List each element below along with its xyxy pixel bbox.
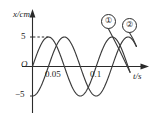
y-axis-arrowhead [30,9,36,18]
curve-1-leader [108,27,131,72]
x-tick-label-005: 0.05 [45,70,61,79]
curve-2-leader [129,31,137,46]
x-tick-label-01: 0.1 [90,70,101,79]
x-axis-arrowhead [141,64,150,70]
x-axis-label: t/s [133,72,142,81]
y-axis-label: x/cm [13,10,30,19]
origin-label: O [21,60,28,69]
y-tick-label-neg5: −5 [15,90,25,99]
curve-2-label: ② [122,18,137,33]
oscillation-graph-figure: x/cm t/s O 5 −5 0.05 0.1 ① ② [0,0,157,118]
x-axis [22,64,149,70]
curve-1-label: ① [101,14,116,29]
y-tick-label-5: 5 [21,32,26,41]
